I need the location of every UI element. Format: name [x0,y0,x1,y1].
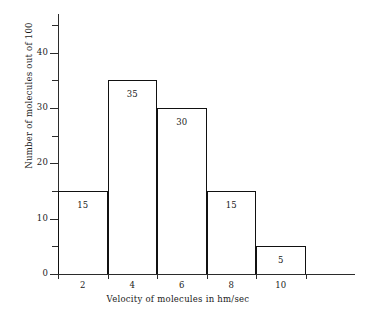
x-tick-label: 2 [71,280,95,290]
x-tick [207,274,208,279]
y-tick-label: 0 [26,269,48,278]
y-axis-title: Number of molecules out of 100 [24,21,35,171]
y-tick-minor [52,25,58,26]
y-tick-major [50,53,58,54]
bar-value-label: 35 [119,89,145,99]
x-tick [58,274,59,279]
x-tick-label: 6 [170,280,194,290]
x-axis-title: Velocity of molecules in hm/sec [58,294,298,305]
x-tick [157,274,158,279]
bar-value-label: 15 [218,200,244,210]
y-tick-label: 10 [26,214,48,223]
histogram-figure: 010203040 153530155 246810 Velocity of m… [0,0,372,313]
y-tick-major [50,163,58,164]
x-tick-label: 4 [120,280,144,290]
bar-value-label: 15 [70,200,96,210]
x-tick [256,274,257,279]
y-tick-minor [52,136,58,137]
plot-area: 010203040 153530155 246810 Velocity of m… [0,0,372,313]
x-tick [108,274,109,279]
x-tick-label: 8 [219,280,243,290]
y-tick-major [50,274,58,275]
y-tick-major [50,219,58,220]
y-tick-minor [52,80,58,81]
y-tick-major [50,108,58,109]
x-tick [306,274,307,279]
histogram-bar [108,80,158,274]
x-tick-label: 10 [269,280,293,290]
histogram-bar [157,108,207,274]
bar-value-label: 30 [169,117,195,127]
bar-value-label: 5 [268,255,294,265]
